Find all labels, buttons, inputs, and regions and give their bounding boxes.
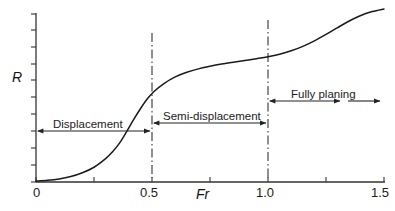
chart-plot-area [0, 0, 395, 211]
x-tick-label-0: 0 [33, 185, 40, 200]
x-tick-label-10: 1.0 [256, 185, 274, 200]
chart-figure: 0 0.5 1.0 1.5 R Fr Displacement Semi-dis… [0, 0, 395, 211]
x-axis-ticks [36, 177, 384, 182]
x-tick-label-05: 0.5 [140, 185, 158, 200]
y-axis-ticks [31, 14, 36, 182]
x-axis-title: Fr [196, 186, 209, 202]
region-label-semi-displacement: Semi-displacement [163, 110, 261, 122]
region-label-fully-planing: Fully planing [291, 88, 356, 100]
region-label-displacement: Displacement [53, 118, 123, 130]
y-axis-title: R [12, 69, 22, 85]
x-tick-label-15: 1.5 [371, 185, 389, 200]
